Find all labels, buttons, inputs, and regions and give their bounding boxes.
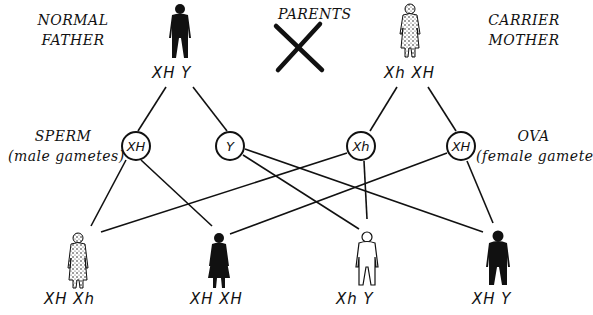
sperm-label: SPERM (male gametes) bbox=[8, 126, 118, 166]
mother-label: CARRIER MOTHER bbox=[474, 10, 574, 50]
gamete-ova-xh-recessive: Xh bbox=[346, 131, 376, 161]
offspring-normal-daughter-icon bbox=[208, 233, 230, 288]
father-label: NORMAL FATHER bbox=[28, 10, 118, 50]
parents-cross-title: PARENTS bbox=[278, 4, 352, 24]
offspring-1-genotype: XH Xh bbox=[44, 290, 95, 308]
offspring-affected-son-icon bbox=[356, 232, 378, 285]
offspring-3-genotype: Xh Y bbox=[336, 290, 374, 308]
offspring-4-genotype: XH Y bbox=[472, 290, 512, 308]
father-figure-icon bbox=[169, 4, 191, 58]
ova-label-sub: (female gametes) bbox=[476, 146, 591, 166]
gamete-sperm-xh: XH bbox=[121, 131, 151, 161]
father-genotype: XH Y bbox=[152, 64, 192, 82]
father-label-line1: NORMAL bbox=[28, 10, 118, 30]
gamete-offspring-lines bbox=[91, 149, 493, 234]
sperm-label-sub: (male gametes) bbox=[8, 146, 118, 166]
ova-label: OVA (female gametes) bbox=[476, 126, 591, 166]
offspring-2-genotype: XH XH bbox=[190, 290, 243, 308]
offspring-carrier-daughter-icon bbox=[68, 233, 88, 288]
sperm-label-title: SPERM bbox=[8, 126, 118, 146]
father-label-line2: FATHER bbox=[28, 30, 118, 50]
gamete-ova-xh-dominant: XH bbox=[446, 131, 476, 161]
offspring-normal-son-icon bbox=[486, 231, 510, 286]
mother-genotype: Xh XH bbox=[384, 64, 435, 82]
mother-figure-icon bbox=[400, 4, 420, 57]
cross-icon bbox=[276, 24, 322, 70]
parent-gamete-lines bbox=[138, 87, 456, 131]
mother-label-line2: MOTHER bbox=[474, 30, 574, 50]
gamete-sperm-y: Y bbox=[215, 131, 245, 161]
mother-label-line1: CARRIER bbox=[474, 10, 574, 30]
ova-label-title: OVA bbox=[476, 126, 591, 146]
